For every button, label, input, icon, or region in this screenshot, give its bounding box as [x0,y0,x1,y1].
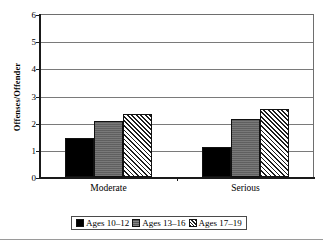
bar [123,114,152,177]
bar [65,138,94,177]
y-axis-title: Offenses/Offender [12,32,22,162]
bottom-divider [0,239,323,240]
legend-swatch-icon [76,219,84,227]
bar-groups [40,14,314,177]
legend-label: Ages 13–16 [142,218,185,228]
category-label: Moderate [40,183,177,197]
bar-group [177,14,314,177]
legend-swatch-icon [189,219,197,227]
legend-swatch-icon [132,219,140,227]
legend-label: Ages 10–12 [86,218,129,228]
bar [260,109,289,177]
legend-item[interactable]: Ages 17–19 [189,218,242,228]
category-labels: ModerateSerious [40,183,314,197]
legend-item[interactable]: Ages 10–12 [76,218,129,228]
chart-legend: Ages 10–12Ages 13–16Ages 17–19 [71,216,247,230]
category-label: Serious [177,183,314,197]
bar [202,147,231,177]
bar [231,119,260,177]
bar-group [40,14,177,177]
bar-chart: Offenses/Offender 0123456 ModerateSeriou… [0,0,323,244]
x-axis-center-tick [177,177,178,181]
bar [94,121,123,178]
legend-item[interactable]: Ages 13–16 [132,218,185,228]
legend-label: Ages 17–19 [199,218,242,228]
